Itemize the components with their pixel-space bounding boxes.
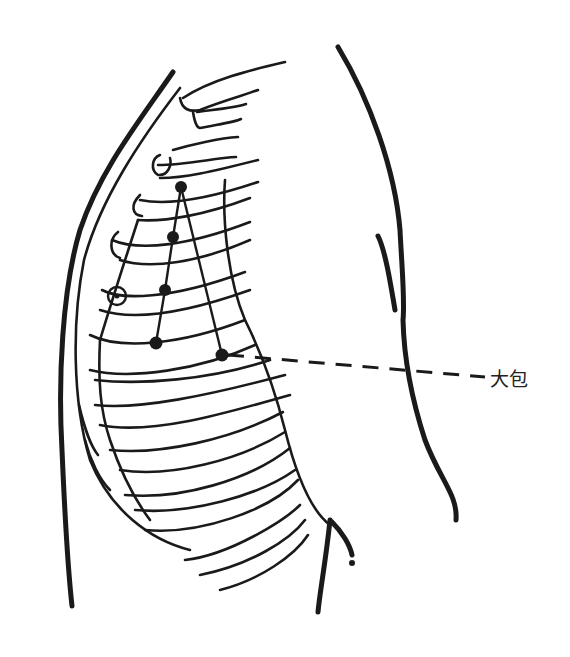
rib — [102, 272, 245, 296]
rib — [95, 375, 285, 406]
acupoint — [150, 337, 163, 350]
rib — [110, 412, 283, 451]
costal-cartilage — [85, 440, 110, 490]
rib — [95, 360, 270, 382]
leader-line — [228, 355, 485, 377]
rib — [140, 182, 258, 202]
rib — [160, 160, 258, 178]
acupoint — [159, 284, 171, 296]
nipple-center — [115, 294, 120, 299]
rib — [135, 470, 295, 511]
hip-outline — [318, 520, 330, 612]
acupoint-dabao — [216, 349, 229, 362]
rib — [120, 240, 250, 264]
rib — [173, 137, 238, 150]
hip-fold — [332, 522, 352, 555]
rib — [133, 195, 142, 216]
ribcage-drawing — [0, 0, 570, 657]
acupoint — [175, 181, 187, 193]
arm-outline — [338, 47, 456, 520]
rib — [90, 345, 255, 374]
hip-dot — [349, 560, 355, 566]
rib — [220, 535, 308, 590]
rib — [193, 112, 241, 128]
rib — [111, 232, 120, 258]
acupoint-label-dabao: 大包 — [490, 364, 528, 391]
acupoint — [167, 231, 179, 243]
rib — [90, 320, 245, 343]
rib — [183, 62, 285, 98]
chest-outline — [76, 88, 190, 550]
rib — [200, 520, 305, 575]
arm-fold — [378, 236, 395, 310]
